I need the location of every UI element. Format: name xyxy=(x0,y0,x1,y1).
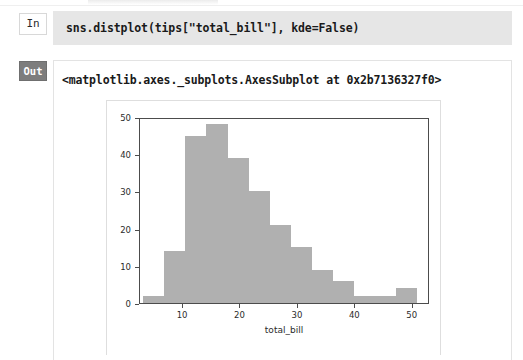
histogram-bar xyxy=(291,247,312,303)
top-divider xyxy=(0,5,523,6)
x-axis-tick xyxy=(297,304,298,308)
histogram-bar xyxy=(333,281,354,303)
x-axis-tick xyxy=(182,304,183,308)
x-axis-tick-label: 10 xyxy=(171,310,193,320)
y-axis-tick-label: 40 xyxy=(111,150,131,160)
x-axis-tick xyxy=(412,304,413,308)
y-axis-tick xyxy=(135,192,139,193)
histogram-bar xyxy=(206,124,227,303)
y-axis-tick-label: 0 xyxy=(111,299,131,309)
histogram-bar xyxy=(228,158,249,303)
y-axis-tick-label: 50 xyxy=(111,113,131,123)
y-axis-tick-label: 10 xyxy=(111,262,131,272)
input-prompt-label: In xyxy=(19,13,47,35)
x-axis-tick-label: 40 xyxy=(343,310,365,320)
y-axis-tick xyxy=(135,118,139,119)
input-code-text[interactable]: sns.distplot(tips["total_bill"], kde=Fal… xyxy=(66,21,359,35)
y-axis-tick-label: 30 xyxy=(111,187,131,197)
x-axis-tick-label: 30 xyxy=(286,310,308,320)
x-axis-tick xyxy=(354,304,355,308)
histogram-bar xyxy=(185,136,206,303)
histogram-bars xyxy=(140,119,428,303)
y-axis-tick xyxy=(135,304,139,305)
histogram-bar xyxy=(164,251,185,303)
histogram-bar xyxy=(375,296,396,303)
y-axis-tick xyxy=(135,155,139,156)
output-prompt-label: Out xyxy=(19,61,47,81)
plot-axes-frame xyxy=(139,118,429,304)
histogram-bar xyxy=(143,296,164,303)
matplotlib-figure: 010203040501020304050 total_bill xyxy=(106,100,441,355)
x-axis-tick-label: 50 xyxy=(401,310,423,320)
histogram-bar xyxy=(396,288,417,303)
x-axis-title: total_bill xyxy=(139,325,429,335)
y-axis-tick xyxy=(135,230,139,231)
output-repr-text: <matplotlib.axes._subplots.AxesSubplot a… xyxy=(62,73,441,87)
y-axis-tick xyxy=(135,267,139,268)
x-axis-tick xyxy=(239,304,240,308)
y-axis-tick-label: 20 xyxy=(111,225,131,235)
histogram-bar xyxy=(312,270,333,303)
x-axis-tick-label: 20 xyxy=(228,310,250,320)
histogram-bar xyxy=(354,296,375,303)
histogram-bar xyxy=(270,225,291,303)
histogram-bar xyxy=(249,191,270,303)
